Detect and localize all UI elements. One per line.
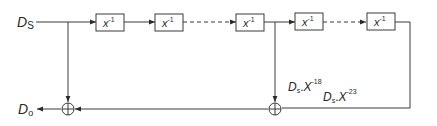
delay-label-1: x-1	[102, 16, 115, 29]
delay-label-3: x-1	[242, 16, 255, 29]
adder-1-icon	[62, 103, 74, 115]
delay-label-5: x-1	[373, 15, 386, 28]
shift-register-diagram: DS Do x-1 x-1 x-1 x-1 x-1 Ds.X-18 Ds.X-2…	[0, 0, 437, 126]
tap-label-18: Ds.X-18	[288, 78, 322, 94]
delay-label-2: x-1	[161, 16, 174, 29]
adder-2-icon	[269, 103, 281, 115]
tap-label-23: Ds.X-23	[323, 88, 357, 104]
output-label: Do	[18, 101, 33, 118]
input-label: DS	[17, 14, 34, 31]
delay-label-4: x-1	[301, 15, 314, 28]
